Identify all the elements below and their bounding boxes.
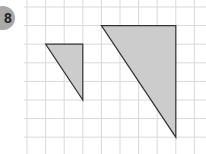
grid-lines <box>24 0 206 154</box>
grid-diagram <box>0 0 206 154</box>
